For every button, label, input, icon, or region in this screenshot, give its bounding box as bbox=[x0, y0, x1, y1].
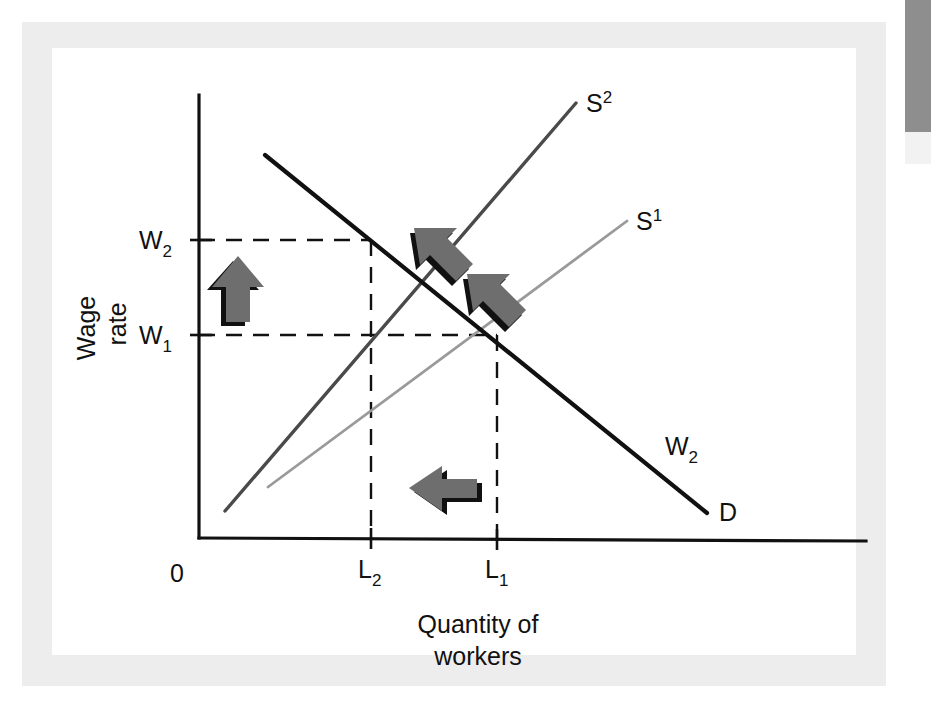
x-axis-title-line2: workers bbox=[433, 642, 522, 670]
w2-tick-label-text: W bbox=[139, 226, 163, 254]
w2-tick-label-sub: 2 bbox=[163, 242, 172, 261]
figure-page: S2 S1 W2 D W2 W1 L2 bbox=[0, 0, 931, 717]
supply-demand-diagram: S2 S1 W2 D W2 W1 L2 bbox=[0, 0, 931, 717]
w1-tick-label-sub: 1 bbox=[163, 337, 172, 356]
l1-tick-label-text: L bbox=[485, 555, 499, 583]
demand-wage-label-text: W bbox=[665, 432, 689, 460]
w2-tick-label: W2 bbox=[139, 226, 172, 261]
wage-increase-up-arrow bbox=[207, 256, 264, 326]
l2-tick-label: L2 bbox=[358, 555, 381, 590]
curves-group bbox=[225, 103, 707, 513]
l2-tick-label-text: L bbox=[358, 555, 372, 583]
l1-tick-label-sub: 1 bbox=[499, 571, 508, 590]
demand-wage-label-sub: 2 bbox=[689, 448, 698, 467]
supply-shift-arrow-upper bbox=[410, 228, 473, 286]
supply-1-label-sup: 1 bbox=[653, 206, 662, 225]
supply-2-label-sup: 2 bbox=[603, 88, 612, 107]
y-axis-title-line1: Wage bbox=[72, 296, 100, 360]
l1-tick-label: L1 bbox=[485, 555, 508, 590]
w1-tick-label-text: W bbox=[139, 321, 163, 349]
supply-2-label-text: S bbox=[586, 89, 603, 117]
supply-1-label-text: S bbox=[636, 207, 653, 235]
x-axis-title-line1: Quantity of bbox=[418, 610, 539, 638]
curve-labels-group: S2 S1 W2 D bbox=[586, 88, 737, 526]
quantity-decrease-left-arrow bbox=[409, 466, 482, 515]
x-axis bbox=[199, 538, 866, 541]
w1-tick-label: W1 bbox=[139, 321, 172, 356]
supply-2-label: S2 bbox=[586, 88, 612, 117]
supply-1-label: S1 bbox=[636, 206, 662, 235]
demand-wage-label: W2 bbox=[665, 432, 698, 467]
origin-label: 0 bbox=[170, 559, 184, 587]
x-axis-title: Quantity of workers bbox=[418, 610, 539, 670]
axes-group bbox=[199, 95, 866, 541]
y-axis-title-line2: rate bbox=[103, 302, 131, 345]
y-axis-title: Wage rate bbox=[72, 296, 131, 360]
l2-tick-label-sub: 2 bbox=[372, 571, 381, 590]
demand-label: D bbox=[719, 498, 737, 526]
